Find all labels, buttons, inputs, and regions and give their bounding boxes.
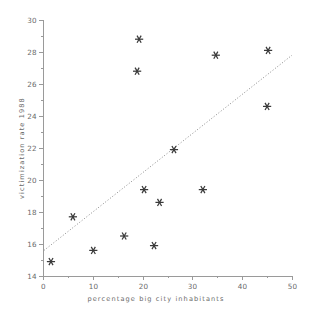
y-axis-tick-label: 18 (27, 208, 37, 217)
x-axis-tick-label: 40 (238, 282, 248, 291)
y-axis-tick-label: 20 (27, 176, 37, 185)
plot-canvas: 14161820222426283001020304050 percentage… (0, 0, 310, 320)
x-axis-tick-label: 50 (288, 282, 298, 291)
y-axis-tick-label: 16 (27, 240, 37, 249)
data-point-marker (120, 232, 128, 239)
y-axis-tick-label: 22 (27, 144, 37, 153)
plot-generated-layer: 14161820222426283001020304050 (27, 16, 297, 291)
data-point-marker (212, 52, 220, 59)
x-axis-tick-label: 30 (188, 282, 198, 291)
data-point-marker (133, 68, 141, 75)
data-point-marker (150, 242, 158, 249)
y-axis-tick-label: 24 (27, 112, 37, 121)
data-point-marker (69, 213, 77, 220)
data-point-marker (170, 146, 178, 153)
y-axis-tick-label: 28 (27, 48, 37, 57)
data-point-marker (264, 47, 272, 54)
y-axis-tick-label: 14 (27, 272, 37, 281)
data-point-marker (135, 36, 143, 43)
data-point-marker (263, 103, 271, 110)
y-axis-label: victimization rate 1988 (18, 97, 26, 199)
scatter-plot-figure: 14161820222426283001020304050 percentage… (0, 0, 310, 320)
y-axis-tick-label: 26 (27, 80, 37, 89)
x-axis-label: percentage big city inhabitants (87, 295, 224, 303)
x-axis-tick-label: 0 (41, 282, 46, 291)
trendline (44, 55, 292, 250)
data-point-marker (89, 247, 97, 254)
data-point-marker (199, 186, 207, 193)
x-axis-tick-label: 20 (139, 282, 149, 291)
y-axis-tick-label: 30 (27, 16, 37, 25)
x-axis-tick-label: 10 (89, 282, 99, 291)
data-point-marker (155, 199, 163, 206)
data-point-marker (140, 186, 148, 193)
data-point-marker (47, 258, 55, 265)
